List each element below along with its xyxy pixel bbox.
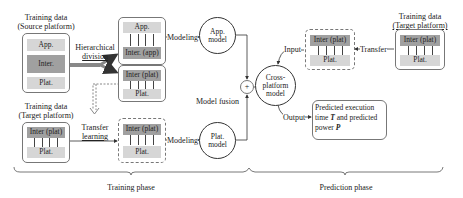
- inter-plat-layer: Inter (plat): [123, 124, 161, 135]
- target-prediction-title: Training data (Target platform): [388, 12, 452, 30]
- output-text-part: power: [315, 123, 336, 132]
- model-fusion-label: Model fusion: [196, 97, 239, 106]
- transfer-label: Transfer: [360, 45, 387, 54]
- prediction-phase-label: Prediction phase: [315, 183, 377, 192]
- plat-layer: Plat.: [123, 146, 161, 158]
- arrows-icon: [404, 46, 436, 55]
- app-layer: App.: [123, 22, 161, 33]
- label-line: division: [70, 52, 120, 61]
- fusion-plus-icon: +: [240, 80, 254, 94]
- input-label: Input: [284, 45, 301, 54]
- prediction-input-box: Inter (plat) Plat.: [305, 29, 355, 70]
- hierarchical-division-label: Hierarchical division: [70, 43, 120, 61]
- output-text: Predicted execution: [315, 103, 384, 113]
- source-training-title: Training data (Source platform): [14, 13, 78, 31]
- arrows-icon: [127, 34, 157, 46]
- plat-layer: Plat.: [310, 55, 350, 66]
- title-line: Training data: [14, 13, 78, 22]
- prediction-output-box: Predicted execution time T and predicted…: [312, 100, 387, 140]
- source-training-box: App. Inter. Plat.: [22, 33, 70, 93]
- output-label: Output: [283, 113, 305, 122]
- title-line: Training data: [388, 12, 452, 21]
- output-text: power P: [315, 123, 384, 133]
- plat-layer: Plat.: [27, 77, 65, 89]
- plat-layer: Plat.: [27, 147, 65, 158]
- inter-plat-layer: Inter (plat): [123, 70, 161, 81]
- output-text: time T and predicted: [315, 113, 384, 123]
- target-prediction-box: Inter (plat) Plat.: [395, 29, 445, 70]
- node-label: model: [263, 90, 289, 98]
- cross-platform-model-node: Cross- platform model: [255, 65, 296, 106]
- node-label: model: [208, 141, 227, 149]
- app-inter-box: App. Inter. (app): [118, 17, 166, 65]
- transferred-box: Inter (plat) Plat.: [118, 118, 166, 163]
- label-line: Hierarchical: [70, 43, 120, 52]
- node-label: model: [208, 36, 227, 44]
- output-text-part: time: [315, 113, 330, 122]
- transfer-learning-label: Transfer learning: [74, 123, 116, 141]
- inter-plat-box: Inter (plat) Plat.: [118, 65, 166, 102]
- app-layer: App.: [27, 39, 65, 51]
- inter-plat-layer: Inter (plat): [310, 35, 350, 46]
- inter-plat-layer: Inter (plat): [27, 127, 65, 138]
- plat-layer: Plat.: [123, 89, 161, 99]
- training-phase-label: Training phase: [100, 183, 162, 192]
- app-model-node: App. model: [199, 17, 236, 54]
- inter-app-layer: Inter. (app): [123, 47, 161, 59]
- output-text-part: and predicted: [335, 113, 377, 122]
- arrows-icon: [314, 46, 346, 55]
- plat-model-node: Plat. model: [199, 122, 236, 159]
- target-training-box: Inter (plat) Plat.: [22, 122, 70, 163]
- inter-layer: Inter.: [27, 55, 65, 73]
- title-line: (Source platform): [14, 22, 78, 31]
- plat-layer: Plat.: [400, 55, 440, 66]
- arrows-icon: [31, 138, 61, 147]
- target-training-title: Training data (Target platform): [14, 102, 78, 120]
- title-line: (Target platform): [14, 111, 78, 120]
- title-line: Training data: [14, 102, 78, 111]
- label-line: Transfer: [74, 123, 116, 132]
- modeling-label-app: Modeling: [167, 33, 198, 42]
- label-line: learning: [74, 132, 116, 141]
- modeling-label-plat: Modeling: [167, 136, 198, 145]
- var-p: P: [336, 123, 341, 132]
- arrows-icon: [127, 135, 157, 145]
- arrows-icon: [127, 81, 157, 89]
- inter-plat-layer: Inter (plat): [400, 35, 440, 46]
